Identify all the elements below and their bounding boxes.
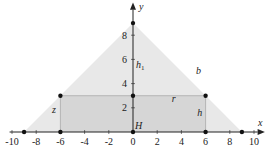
x-tick-label: 4	[179, 136, 184, 147]
point	[203, 94, 207, 98]
point	[22, 130, 26, 134]
x-tick-label: -2	[105, 136, 113, 147]
x-tick-label: -4	[80, 136, 88, 147]
x-axis-arrow	[258, 129, 265, 135]
triangle-rectangle-diagram: -10-8-6-4-202468102468 x y b r h z h1 H	[0, 0, 266, 151]
x-tick-label: -8	[32, 136, 40, 147]
label-b: b	[196, 65, 201, 76]
label-h1-sub: 1	[141, 64, 145, 72]
x-tick-label: 0	[131, 136, 136, 147]
y-tick-label: 8	[122, 30, 127, 41]
point	[240, 130, 244, 134]
y-axis-label: y	[138, 1, 144, 12]
x-tick-label: 2	[155, 136, 160, 147]
point	[131, 21, 135, 25]
x-tick-label: 8	[227, 136, 232, 147]
x-tick-label: 6	[203, 136, 208, 147]
label-z: z	[51, 104, 56, 115]
y-tick-label: 2	[122, 102, 127, 113]
x-axis-label: x	[257, 117, 263, 128]
x-tick-label: -6	[56, 136, 64, 147]
x-tick-label: 10	[249, 136, 259, 147]
y-tick-label: 4	[122, 78, 127, 89]
x-tick-label: -10	[5, 136, 18, 147]
label-H: H	[134, 120, 143, 131]
point	[58, 130, 62, 134]
y-axis-arrow	[130, 3, 136, 10]
point	[58, 94, 62, 98]
label-h: h	[197, 107, 202, 118]
point	[131, 94, 135, 98]
point	[203, 130, 207, 134]
label-r: r	[172, 93, 176, 104]
y-tick-label: 6	[122, 54, 127, 65]
